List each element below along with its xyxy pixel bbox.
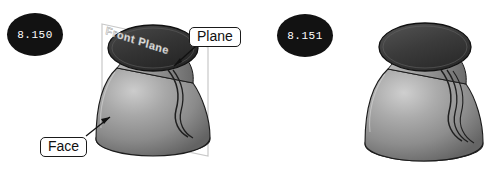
- figure-canvas: Front Plane Front Plane 8.150: [0, 0, 501, 170]
- plane-name-label: Front Plane: [105, 24, 171, 56]
- figure-number-badge-8-151: 8.151: [277, 14, 333, 57]
- leader-line-plane: [174, 46, 196, 66]
- model-revolved-vase-right: [365, 23, 483, 161]
- leader-line-face: [86, 117, 110, 136]
- figure-number-badge-8-150: 8.150: [7, 13, 63, 56]
- figure-number-text: 8.151: [287, 30, 323, 42]
- callout-label-plane: Plane: [189, 27, 241, 47]
- callout-text: Plane: [197, 28, 233, 44]
- figure-number-text: 8.150: [17, 29, 53, 41]
- callout-text: Face: [48, 138, 79, 154]
- plane-name-text: Front Plane Front Plane: [105, 24, 171, 56]
- callout-label-face: Face: [40, 137, 87, 157]
